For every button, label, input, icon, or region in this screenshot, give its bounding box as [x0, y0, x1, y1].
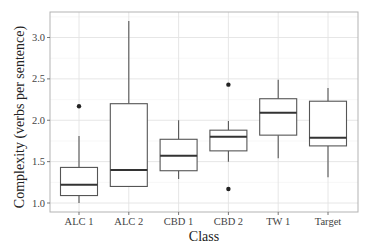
outlier-point: [226, 82, 230, 86]
y-axis-title: Complexity (verbs per sentence): [12, 25, 28, 208]
box-cbd-1: [160, 120, 197, 179]
y-tick-label: 2.5: [32, 73, 45, 84]
x-tick-label: CBD 1: [164, 216, 193, 227]
y-tick-label: 1.5: [32, 156, 45, 167]
iqr-box: [110, 104, 147, 187]
x-tick-label: TW 1: [266, 216, 290, 227]
box-tw-1: [260, 80, 297, 159]
x-axis-title: Class: [189, 229, 219, 244]
y-axis: 1.01.52.02.53.0: [32, 32, 50, 209]
outlier-point: [226, 187, 230, 191]
box-plot-chart: 1.01.52.02.53.0 ALC 1ALC 2CBD 1CBD 2TW 1…: [0, 0, 374, 250]
x-axis: ALC 1ALC 2CBD 1CBD 2TW 1Target: [65, 212, 342, 227]
x-tick-label: Target: [315, 216, 342, 227]
y-tick-label: 1.0: [32, 198, 45, 209]
iqr-box: [260, 99, 297, 135]
minor-gridlines: [50, 17, 358, 183]
x-tick-label: CBD 2: [214, 216, 243, 227]
y-tick-label: 2.0: [32, 115, 45, 126]
iqr-box: [210, 130, 247, 151]
box-alc-2: [110, 21, 147, 187]
x-tick-label: ALC 1: [65, 216, 94, 227]
y-tick-label: 3.0: [32, 32, 45, 43]
box-series: [61, 21, 347, 203]
iqr-box: [310, 101, 347, 146]
box-target: [310, 88, 347, 177]
outlier-point: [77, 104, 81, 108]
x-tick-label: ALC 2: [114, 216, 143, 227]
iqr-box: [61, 167, 98, 195]
